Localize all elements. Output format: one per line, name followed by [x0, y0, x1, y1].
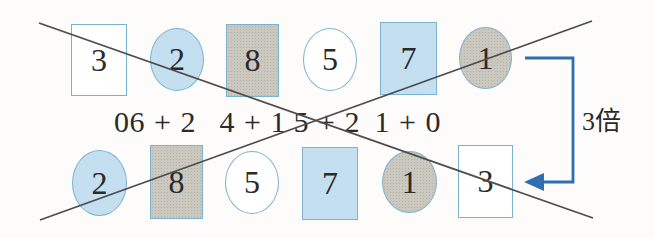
top-row-square-8: 8 [226, 24, 279, 97]
expression-5-2: 5 + 2 [292, 104, 362, 140]
bottom-row-ellipse-2: 2 [72, 150, 127, 216]
bottom-row-square-3: 3 [458, 145, 513, 218]
top-row-ellipse-5: 5 [303, 28, 357, 91]
times-arrow-head [524, 173, 544, 191]
expression-4-1: 4 + 1 [218, 104, 288, 140]
top-row-ellipse-2: 2 [150, 28, 204, 91]
bottom-row-ellipse-5: 5 [225, 151, 279, 214]
expression-6-2: 6 + 2 [128, 104, 198, 140]
times-arrow [525, 58, 573, 182]
top-row-square-3: 3 [71, 24, 127, 96]
bottom-row-ellipse-1: 1 [382, 151, 437, 213]
expression-1-0: 1 + 0 [373, 104, 443, 140]
top-row-square-7: 7 [380, 22, 437, 95]
multiplier-label: 3倍 [582, 106, 642, 138]
bottom-row-square-7: 7 [302, 147, 358, 220]
top-row-ellipse-1: 1 [459, 27, 512, 89]
diagram-canvas: 3 2 8 5 7 1 0 6 + 2 4 + 1 5 + 2 1 + 0 2 … [0, 0, 654, 238]
bottom-row-square-8: 8 [150, 145, 203, 219]
